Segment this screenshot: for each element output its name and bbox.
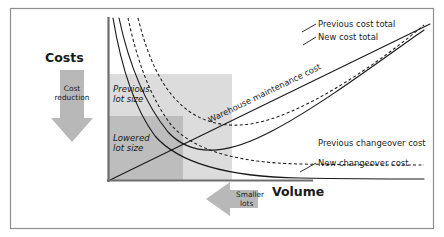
figure-container: Costs Volume Previous lot size Lowered l… xyxy=(0,0,444,237)
cost-reduction-label-line2: reduction xyxy=(54,93,89,102)
label-new-cost-total: New cost total xyxy=(318,32,378,42)
label-previous-cost-total: Previous cost total xyxy=(318,19,395,29)
x-axis-title: Volume xyxy=(272,184,324,199)
smaller-lots-label-line2: lots xyxy=(240,199,253,208)
diagram-svg: Costs Volume Previous lot size Lowered l… xyxy=(0,0,444,237)
smaller-lots-label-line1: Smaller xyxy=(236,190,265,199)
previous-lot-size-label-line2: lot size xyxy=(113,94,143,104)
previous-lot-size-label-line1: Previous xyxy=(113,84,150,94)
label-new-changeover-cost: New changeover cost xyxy=(318,158,409,168)
lowered-lot-size-label-line2: lot size xyxy=(113,143,143,153)
y-axis-title: Costs xyxy=(45,50,84,65)
lowered-lot-size-label-line1: Lowered xyxy=(113,133,150,143)
label-previous-changeover-cost: Previous changeover cost xyxy=(318,138,426,148)
cost-reduction-label-line1: Cost xyxy=(64,84,81,93)
